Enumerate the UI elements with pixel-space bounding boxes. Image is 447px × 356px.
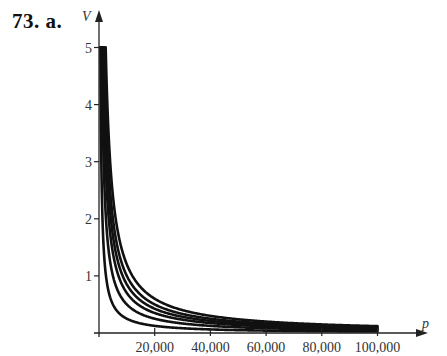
x-tick-label: 80,000 (303, 340, 342, 355)
y-tick-label: 5 (85, 41, 92, 56)
y-tick-label: 1 (85, 269, 92, 284)
y-axis-label: V (82, 9, 92, 24)
x-tick-label: 40,000 (191, 340, 230, 355)
curve-group (100, 48, 377, 332)
x-tick-label: 100,000 (355, 340, 401, 355)
curve-4 (100, 48, 377, 329)
y-tick-label: 2 (85, 212, 92, 227)
x-axis-label: p (421, 316, 429, 331)
curve-6 (100, 48, 377, 327)
curve-5 (100, 48, 377, 328)
x-tick-label: 20,000 (135, 340, 174, 355)
hyperbola-family-chart: Vp 1234520,00040,00060,00080,000100,000 (0, 0, 447, 356)
y-tick-label: 3 (85, 155, 92, 170)
y-tick-label: 4 (85, 98, 92, 113)
x-tick-label: 60,000 (247, 340, 286, 355)
y-axis-arrow-icon (95, 10, 103, 22)
